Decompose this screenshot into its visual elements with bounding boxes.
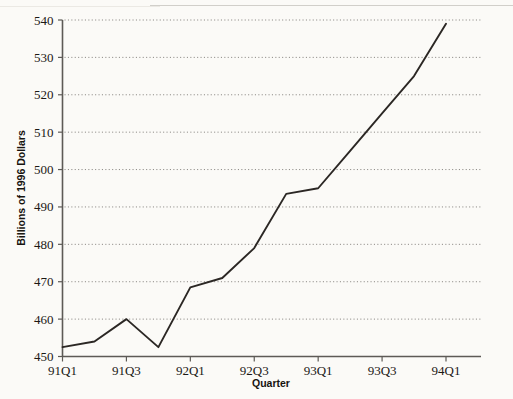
y-tick-label: 520 [34,87,54,102]
gridline-group [65,20,482,319]
y-axis-title: Billions of 1996 Dollars [15,130,27,246]
x-tick-label: 91Q3 [112,363,141,378]
y-tick-label: 540 [34,13,54,28]
data-series-line [63,24,447,347]
y-tick-label: 460 [34,312,54,327]
y-tick-group: 450460470480490500510520530540 [34,13,63,365]
x-axis-title: Quarter [252,377,290,389]
y-tick-label: 490 [34,199,54,214]
chart-page: 450460470480490500510520530540 91Q191Q39… [0,0,513,399]
x-tick-label: 94Q1 [432,363,461,378]
y-tick-label: 470 [34,274,54,289]
x-tick-label: 92Q1 [176,363,205,378]
x-tick-label: 91Q1 [48,363,77,378]
x-tick-label: 92Q3 [240,363,269,378]
y-tick-label: 480 [34,237,54,252]
y-tick-label: 530 [34,50,54,65]
x-tick-group: 91Q191Q392Q192Q393Q193Q394Q1 [48,357,460,378]
y-tick-label: 510 [34,125,54,140]
y-tick-label: 500 [34,162,54,177]
line-chart: 450460470480490500510520530540 91Q191Q39… [0,0,513,399]
x-tick-label: 93Q3 [368,363,397,378]
x-tick-label: 93Q1 [304,363,333,378]
